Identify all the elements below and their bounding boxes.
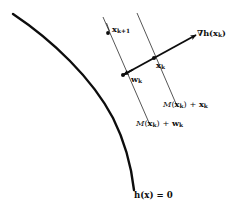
- w-current-point: [121, 73, 125, 77]
- label-m-xk-plus-wk: M(xk) + wk: [136, 119, 183, 128]
- label-gradient-h-xk: ∇h(xk): [197, 29, 226, 38]
- constraint-curve: [13, 14, 134, 190]
- label-x-k-plus-1: xk+1: [112, 25, 130, 34]
- label-constraint-h-x-equals-zero: h(x) = 0: [134, 191, 173, 200]
- diagram-figure: xk+1 ∇h(xk) xk wk M(xk) + xk M(xk) + wk …: [0, 0, 246, 213]
- x-next-point: [106, 31, 110, 35]
- label-w-k: wk: [131, 75, 142, 84]
- label-m-xk-plus-xk: M(xk) + xk: [163, 100, 208, 109]
- label-x-k: xk: [156, 61, 165, 70]
- x-next-tick: [107, 23, 110, 31]
